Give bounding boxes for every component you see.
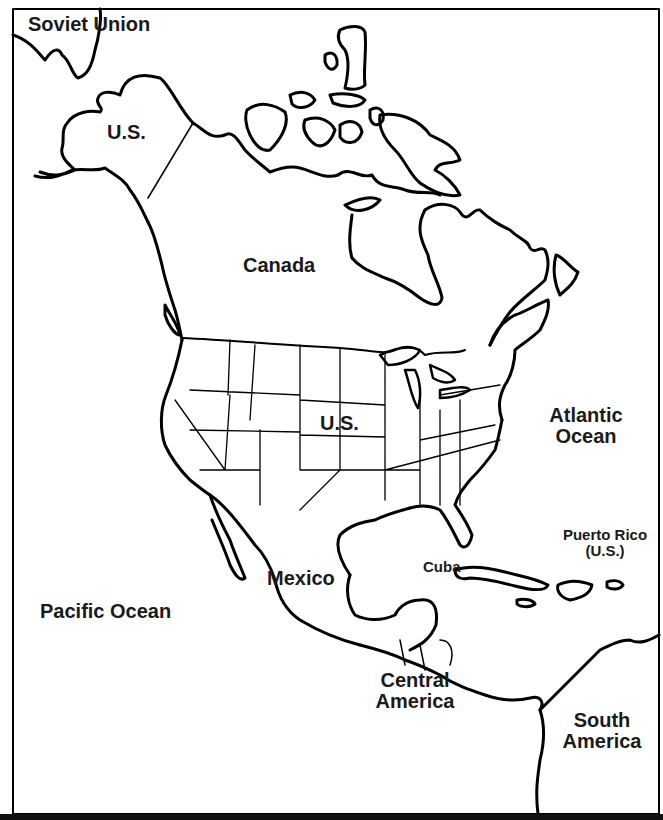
arctic-island-4 (330, 94, 365, 107)
puerto-rico-island (607, 581, 623, 589)
labrador-coast (425, 204, 548, 345)
mexico-east-coast (348, 575, 437, 650)
atlantic-line1: Atlantic (536, 405, 636, 426)
label-mexico: Mexico (267, 568, 335, 589)
north-america-map: Soviet Union U.S. Canada U.S. Atlantic O… (0, 0, 663, 820)
arctic-island-3 (290, 92, 315, 107)
label-atlantic-ocean: Atlantic Ocean (536, 405, 636, 447)
label-soviet-union: Soviet Union (28, 14, 150, 35)
label-us-mainland: U.S. (320, 413, 359, 434)
jamaica-island (517, 599, 535, 606)
ellesmere-island (338, 26, 365, 89)
newfoundland (554, 255, 578, 295)
arctic-island-7 (370, 108, 383, 125)
cuba-island (455, 567, 548, 589)
atlantic-line2: Ocean (536, 426, 636, 447)
label-central-america: Central America (365, 670, 465, 712)
label-puerto-rico: Puerto Rico (U.S.) (550, 527, 660, 559)
label-us-alaska: U.S. (107, 122, 146, 143)
bottom-bar (0, 814, 663, 820)
arctic-island-5 (304, 118, 335, 146)
us-west-coast (161, 340, 210, 495)
central-line2: America (365, 691, 465, 712)
puerto-rico-line1: Puerto Rico (550, 527, 660, 543)
bc-coast (148, 222, 182, 340)
maritimes-coast (490, 300, 548, 420)
central-line1: Central (365, 670, 465, 691)
baffin-island (380, 114, 460, 195)
label-canada: Canada (243, 255, 315, 276)
south-line1: South (552, 710, 652, 731)
hispaniola-island (558, 581, 592, 600)
us-canada-border (182, 338, 465, 355)
arctic-island-1 (246, 104, 287, 150)
baja-california (210, 495, 245, 579)
alaska-canada-border (148, 123, 193, 198)
label-south-america: South America (552, 710, 652, 752)
arctic-island-2 (325, 53, 337, 69)
puerto-rico-line2: (U.S.) (550, 543, 660, 559)
arctic-island-6 (340, 121, 362, 142)
great-lakes (380, 348, 470, 408)
central-america-borders (400, 640, 452, 670)
alaska-coast (35, 75, 193, 222)
label-pacific-ocean: Pacific Ocean (40, 601, 171, 622)
south-line2: America (552, 731, 652, 752)
label-cuba: Cuba (423, 559, 461, 575)
hudson-bay (345, 198, 442, 305)
gulf-coast (338, 508, 410, 575)
